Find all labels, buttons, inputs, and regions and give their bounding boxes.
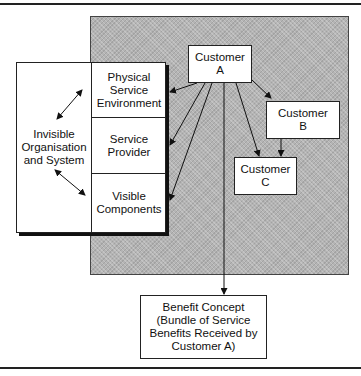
visible-components-box: Visible Components [91,174,166,232]
physical-service-environment-box: Physical Service Environment [91,63,166,118]
customer-b-label: Customer B [278,107,328,133]
customer-c-label: Customer C [241,163,291,189]
invisible-organisation-text: Invisible Organisation and System [21,128,86,167]
service-provider-label: Service Provider [108,133,151,159]
service-organisation-panel: Invisible Organisation and System Physic… [16,62,166,233]
customer-a-box: Customer A [188,45,252,83]
benefit-concept-box: Benefit Concept (Bundle of Service Benef… [140,295,267,359]
visible-components-label: Visible Components [96,190,161,216]
customer-a-label: Customer A [195,51,245,77]
benefit-concept-label: Benefit Concept (Bundle of Service Benef… [149,301,257,353]
invisible-organisation-label: Invisible Organisation and System [17,118,91,176]
top-rule [0,3,361,5]
bottom-rule [0,367,361,369]
service-provider-box: Service Provider [91,118,166,174]
customer-c-box: Customer C [234,157,297,195]
physical-service-environment-label: Physical Service Environment [97,71,162,110]
customer-b-box: Customer B [266,101,340,139]
